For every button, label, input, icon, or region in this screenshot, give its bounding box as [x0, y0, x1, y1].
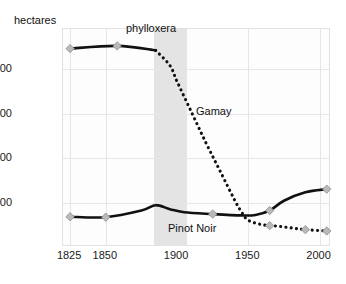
y-tick-10000: 10,000: [0, 151, 12, 163]
series-line-gamay-solid: [70, 46, 156, 50]
plot-area: [62, 28, 330, 246]
y-axis-title: hectares: [14, 14, 56, 28]
data-marker-gamay: [301, 225, 309, 233]
annotation-phylloxera: phylloxera: [126, 22, 176, 34]
data-marker-pinot-noir: [323, 185, 331, 193]
data-point-markers: [66, 42, 331, 235]
annotation-gamay: Gamay: [196, 105, 231, 117]
x-tick-1850: 1850: [93, 249, 117, 261]
series-line-gamay-dotted: [156, 50, 327, 231]
x-tick-1825: 1825: [57, 249, 81, 261]
data-marker-pinot-noir: [66, 213, 74, 221]
data-marker-gamay: [323, 227, 331, 235]
y-tick-5000: 5,000: [0, 196, 12, 208]
data-marker-pinot-noir: [102, 213, 110, 221]
chart-figure: hectares 20,00015,00010,0005,000 1825185…: [0, 0, 346, 284]
x-tick-1950: 1950: [235, 249, 259, 261]
series-layer: [63, 29, 331, 247]
annotation-pinot-noir: Pinot Noir: [168, 222, 216, 234]
x-tick-1900: 1900: [164, 249, 188, 261]
data-marker-gamay: [66, 44, 74, 52]
data-marker-gamay: [113, 42, 121, 50]
y-tick-20000: 20,000: [0, 62, 12, 74]
data-marker-pinot-noir: [208, 210, 216, 218]
series-line-pinot-noir: [70, 189, 327, 217]
data-marker-gamay: [266, 221, 274, 229]
y-tick-15000: 15,000: [0, 107, 12, 119]
x-tick-2000: 2000: [306, 249, 330, 261]
